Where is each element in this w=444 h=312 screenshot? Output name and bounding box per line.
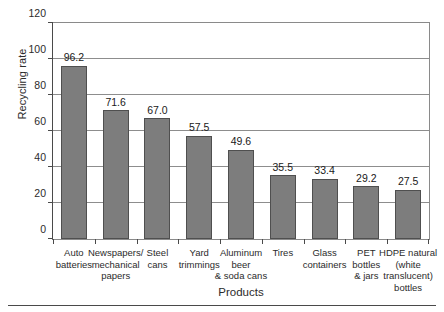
x-axis-tick-mark bbox=[53, 239, 54, 244]
x-axis-tick-mark bbox=[220, 239, 221, 244]
bar-column: 29.2 bbox=[345, 23, 387, 239]
bar-value-label: 67.0 bbox=[147, 105, 167, 116]
x-axis-tick-mark bbox=[387, 239, 388, 244]
bar bbox=[228, 150, 254, 239]
bar-value-label: 71.6 bbox=[105, 97, 125, 108]
x-axis-tick-mark bbox=[428, 239, 429, 244]
bar bbox=[395, 190, 421, 240]
bar-value-label: 49.6 bbox=[231, 136, 251, 147]
bar-value-label: 27.5 bbox=[398, 176, 418, 187]
bar-series: 96.271.667.057.549.635.533.429.227.5 bbox=[53, 23, 429, 239]
x-axis-tick-mark bbox=[178, 239, 179, 244]
footer-rule bbox=[8, 305, 436, 306]
bar bbox=[144, 118, 170, 239]
y-axis-tick-label: 60 bbox=[7, 115, 53, 126]
bar-column: 57.5 bbox=[178, 23, 220, 239]
bar bbox=[353, 186, 379, 239]
recycling-rate-bar-chart: Recycling rate 020406080100120 96.271.66… bbox=[0, 0, 444, 312]
y-axis-tick-label: 20 bbox=[7, 187, 53, 198]
bar bbox=[270, 175, 296, 239]
bar-column: 33.4 bbox=[304, 23, 346, 239]
bar-value-label: 35.5 bbox=[273, 162, 293, 173]
y-axis-tick-label: 0 bbox=[7, 223, 53, 234]
bar-column: 27.5 bbox=[387, 23, 429, 239]
bar-column: 71.6 bbox=[95, 23, 137, 239]
bar-column: 35.5 bbox=[262, 23, 304, 239]
bar bbox=[103, 110, 129, 239]
x-axis-tick-mark bbox=[304, 239, 305, 244]
y-axis-tick-label: 40 bbox=[7, 151, 53, 162]
y-axis-tick-label: 80 bbox=[7, 79, 53, 90]
bar-column: 96.2 bbox=[53, 23, 95, 239]
bar-value-label: 33.4 bbox=[314, 165, 334, 176]
bar-column: 67.0 bbox=[137, 23, 179, 239]
x-axis-title: Products bbox=[52, 286, 430, 298]
bar-column: 49.6 bbox=[220, 23, 262, 239]
bar bbox=[61, 66, 87, 239]
bar-value-label: 96.2 bbox=[64, 52, 84, 63]
bar bbox=[186, 136, 212, 240]
plot-area: 020406080100120 96.271.667.057.549.635.5… bbox=[52, 22, 430, 240]
bar bbox=[312, 179, 338, 239]
y-axis-tick-label: 120 bbox=[7, 7, 53, 18]
y-axis-tick-label: 100 bbox=[7, 43, 53, 54]
x-axis-tick-mark bbox=[345, 239, 346, 244]
x-axis-tick-mark bbox=[262, 239, 263, 244]
bar-value-label: 57.5 bbox=[189, 122, 209, 133]
x-axis-tick-mark bbox=[95, 239, 96, 244]
x-axis-tick-mark bbox=[137, 239, 138, 244]
bar-value-label: 29.2 bbox=[356, 173, 376, 184]
